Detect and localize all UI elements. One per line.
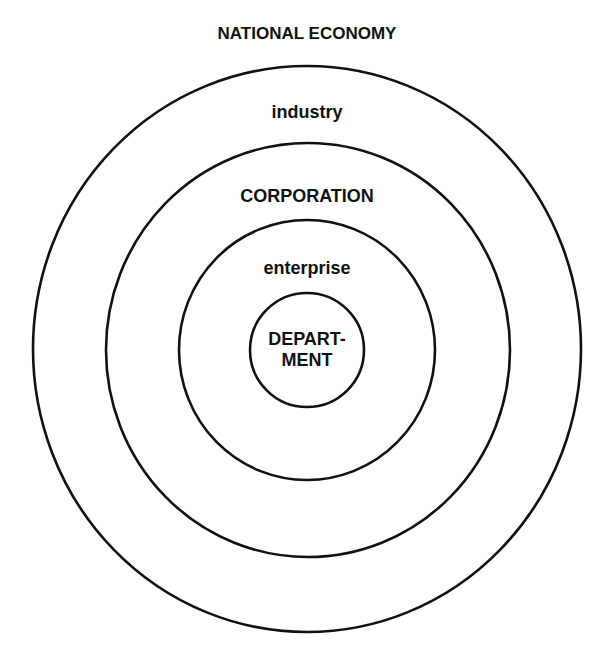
label-industry: industry bbox=[0, 102, 606, 123]
label-corporation: CORPORATION bbox=[0, 186, 606, 207]
diagram-title: NATIONAL ECONOMY bbox=[0, 24, 606, 44]
label-department: DEPART- MENT bbox=[0, 329, 606, 371]
label-enterprise: enterprise bbox=[0, 258, 606, 279]
label-department-line1: DEPART- bbox=[0, 329, 606, 350]
label-department-line2: MENT bbox=[0, 350, 606, 371]
